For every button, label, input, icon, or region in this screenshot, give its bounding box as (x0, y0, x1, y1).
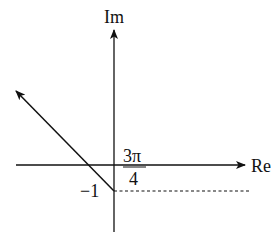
real-axis-label: Re (251, 156, 271, 176)
imag-axis-label: Im (104, 7, 124, 27)
ray-arrow (16, 91, 114, 191)
point-minus-one-label: −1 (80, 181, 99, 201)
angle-numerator: 3π (123, 146, 141, 166)
angle-denominator: 4 (129, 169, 138, 189)
complex-plane-diagram: Im Re −1 3π 4 (0, 0, 271, 232)
